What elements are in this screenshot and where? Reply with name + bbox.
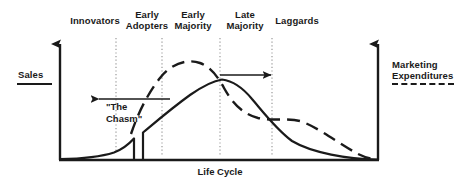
marketing-expenditures-curve	[131, 61, 377, 159]
technology-adoption-chasm-figure: Innovators Early Adopters Early Majority…	[0, 0, 466, 188]
sales-legend-solid-line	[17, 83, 52, 85]
sales-curve-innovator-segment	[60, 139, 134, 160]
sales-curve-main-bell	[143, 80, 377, 160]
segment-label-early-majority: Early Majority	[165, 10, 221, 31]
x-axis-title-life-cycle: Life Cycle	[0, 166, 440, 177]
chasm-annotation-label: "The Chasm"	[106, 101, 142, 124]
left-axis-title-sales: Sales	[18, 70, 43, 81]
marketing-legend-dashed-line	[392, 83, 454, 85]
right-axis-title-marketing-expenditures: Marketing Expenditures	[392, 60, 453, 81]
segment-label-laggards: Laggards	[262, 16, 332, 27]
